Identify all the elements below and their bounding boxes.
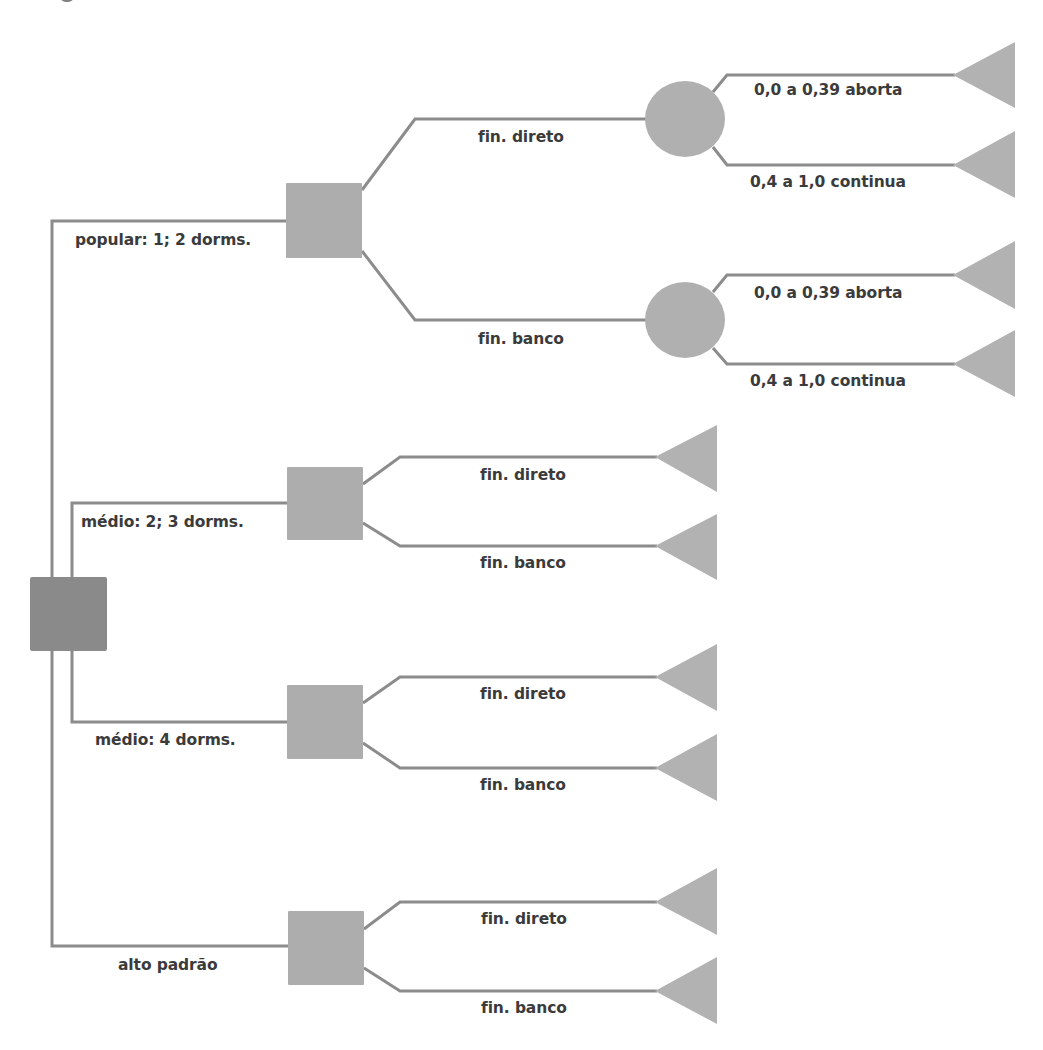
- edge-root-alto-padrao: [52, 651, 288, 946]
- terminal-triangle-icon: [655, 425, 717, 492]
- branch-label-popular-fin-direto: fin. direto: [478, 128, 564, 146]
- chance-label-2-continua: 0,4 a 1,0 continua: [750, 372, 906, 390]
- option-label-medio-23: médio: 2; 3 dorms.: [81, 513, 244, 531]
- edge-chance1-continua: [713, 147, 955, 165]
- edge-chance2-continua: [713, 348, 955, 364]
- decision-node-medio-4: [287, 685, 363, 759]
- edge-popular-fin-banco: [362, 251, 646, 320]
- root-decision-node: [30, 577, 107, 651]
- chance-node-popular-fin-direto: [645, 81, 725, 157]
- edge-medio4-fin-banco: [363, 743, 657, 768]
- terminal-triangle-icon: [655, 734, 717, 801]
- terminal-triangle-icon: [655, 514, 717, 580]
- branch-label-medio23-fin-banco: fin. banco: [480, 554, 566, 572]
- option-label-alto-padrao: alto padrão: [118, 956, 218, 974]
- option-label-medio-4: médio: 4 dorms.: [95, 731, 236, 749]
- terminal-triangle-icon: [953, 241, 1015, 309]
- terminal-triangle-icon: [655, 868, 717, 935]
- edge-root-medio-4: [72, 651, 287, 722]
- branch-label-alto-fin-direto: fin. direto: [481, 910, 567, 928]
- branch-label-alto-fin-banco: fin. banco: [481, 999, 567, 1017]
- branch-label-popular-fin-banco: fin. banco: [478, 330, 564, 348]
- edge-alto-fin-banco: [364, 968, 657, 991]
- decision-node-alto-padrao: [288, 911, 364, 985]
- terminal-triangle-icon: [953, 42, 1015, 108]
- terminal-triangle-icon: [953, 131, 1015, 198]
- decision-node-medio-23: [287, 467, 363, 540]
- chance-node-popular-fin-banco: [645, 282, 725, 358]
- branch-label-medio4-fin-direto: fin. direto: [480, 685, 566, 703]
- edge-medio23-fin-banco: [363, 523, 657, 546]
- chance-label-1-aborta: 0,0 a 0,39 aborta: [754, 81, 902, 99]
- chance-label-2-aborta: 0,0 a 0,39 aborta: [754, 284, 902, 302]
- branch-label-medio4-fin-banco: fin. banco: [480, 776, 566, 794]
- option-label-popular: popular: 1; 2 dorms.: [75, 231, 251, 249]
- decision-node-popular: [286, 183, 362, 258]
- terminal-triangle-icon: [953, 330, 1015, 397]
- branch-label-medio23-fin-direto: fin. direto: [480, 466, 566, 484]
- chance-label-1-continua: 0,4 a 1,0 continua: [750, 173, 906, 191]
- connector-lines: [52, 75, 955, 991]
- terminal-triangle-icon: [655, 957, 717, 1024]
- terminal-triangle-icon: [655, 644, 717, 711]
